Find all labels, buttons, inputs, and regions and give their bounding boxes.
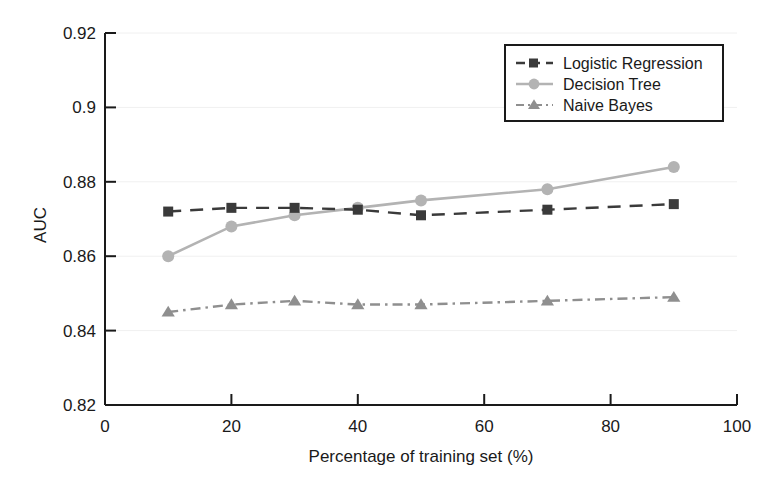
y-tick-label: 0.88 [63,173,96,192]
circle-marker [415,194,427,206]
square-marker-icon [529,59,538,68]
y-tick-label: 0.86 [63,247,96,266]
square-marker [290,203,300,213]
x-tick-label: 0 [100,417,109,436]
square-marker [163,207,173,217]
x-tick-label: 60 [475,417,494,436]
y-tick-label: 0.9 [72,98,96,117]
square-marker [669,199,679,209]
legend: Logistic Regression Decision Tree Naive … [505,45,723,121]
square-marker [416,210,426,220]
square-marker [226,203,236,213]
legend-label-naive-bayes: Naive Bayes [563,97,653,114]
x-tick-label: 20 [222,417,241,436]
legend-label-decision-tree: Decision Tree [563,76,661,93]
y-tick-label: 0.82 [63,396,96,415]
square-marker [353,205,363,215]
circle-marker [225,220,237,232]
x-tick-label: 80 [601,417,620,436]
auc-line-chart: 0.820.840.860.880.90.92 020406080100 AUC… [0,0,778,480]
y-tick-label: 0.84 [63,322,96,341]
y-axis-title: AUC [31,207,50,243]
circle-marker-icon [529,79,540,90]
x-tick-label: 100 [723,417,751,436]
x-tick-label: 40 [348,417,367,436]
circle-marker [541,183,553,195]
circle-marker [162,250,174,262]
chart-figure: 0.820.840.860.880.90.92 020406080100 AUC… [0,0,778,480]
legend-label-logistic-regression: Logistic Regression [563,55,703,72]
x-axis-title: Percentage of training set (%) [309,447,534,466]
square-marker [542,205,552,215]
y-tick-label: 0.92 [63,24,96,43]
circle-marker [668,161,680,173]
